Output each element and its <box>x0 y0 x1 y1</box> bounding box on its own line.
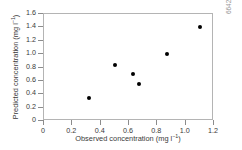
y-axis-tick-label: 1.4 <box>2 22 36 30</box>
x-axis-tick <box>128 120 129 125</box>
plot-area <box>43 13 213 120</box>
y-axis-tick-label: 0.2 <box>2 103 36 111</box>
x-axis-tick-label: 0.6 <box>113 126 143 135</box>
x-axis-tick-label: 1.2 <box>198 126 228 135</box>
data-point <box>165 52 169 56</box>
x-axis-tick-label-wrap: 0.8 <box>141 126 171 135</box>
y-axis-tick-label: 1.2 <box>2 36 36 44</box>
x-axis-tick-label: 0.8 <box>141 126 171 135</box>
y-axis-tick-label-wrap: 0.4 <box>0 89 36 97</box>
y-axis-tick-label-wrap: 0 <box>0 116 36 124</box>
x-axis-tick-label-wrap: 0.4 <box>85 126 115 135</box>
x-axis-tick-label-wrap: 0.2 <box>56 126 86 135</box>
y-axis-tick-label: 0.4 <box>2 89 36 97</box>
x-axis-tick-label-wrap: 0 <box>28 126 58 135</box>
x-axis-title-text: Observed concentration (mg l <box>75 134 172 143</box>
y-axis-tick-label-wrap: 0.6 <box>0 76 36 84</box>
scatter-chart-figure: Predicted concentration (mg l−1) Observe… <box>0 0 242 150</box>
x-axis-tick <box>100 120 101 125</box>
x-axis-tick <box>156 120 157 125</box>
data-point <box>113 63 117 67</box>
x-axis-tick <box>213 120 214 125</box>
y-axis-tick-label: 0.6 <box>2 76 36 84</box>
x-axis-tick <box>185 120 186 125</box>
x-axis-tick-label: 0.4 <box>85 126 115 135</box>
x-axis-tick-label-wrap: 0.6 <box>113 126 143 135</box>
y-axis-tick-label-wrap: 0.2 <box>0 103 36 111</box>
y-axis-tick-label: 0 <box>2 116 36 124</box>
y-axis-tick-label: 1.0 <box>2 49 36 57</box>
x-axis-title-tail: ) <box>178 134 180 143</box>
y-axis-tick-label-wrap: 1.6 <box>0 9 36 17</box>
figure-id-label: 6642 <box>224 0 234 14</box>
x-axis-title: Observed concentration (mg l−1) <box>43 134 213 143</box>
x-axis-tick-label: 0.2 <box>56 126 86 135</box>
y-axis-tick-label: 0.8 <box>2 63 36 71</box>
x-axis-tick-label-wrap: 1.2 <box>198 126 228 135</box>
x-axis-tick <box>71 120 72 125</box>
x-axis-tick-label: 0 <box>28 126 58 135</box>
x-axis-tick <box>43 120 44 125</box>
data-point <box>198 25 202 29</box>
data-point <box>131 72 135 76</box>
x-axis-tick-label-wrap: 1.0 <box>170 126 200 135</box>
y-axis-tick-label: 1.6 <box>2 9 36 17</box>
y-axis-tick-label-wrap: 1.4 <box>0 22 36 30</box>
data-point <box>87 96 91 100</box>
y-axis-tick-label-wrap: 0.8 <box>0 63 36 71</box>
data-point <box>137 82 141 86</box>
y-axis-tick-label-wrap: 1.2 <box>0 36 36 44</box>
x-axis-tick-label: 1.0 <box>170 126 200 135</box>
y-axis-tick-label-wrap: 1.0 <box>0 49 36 57</box>
